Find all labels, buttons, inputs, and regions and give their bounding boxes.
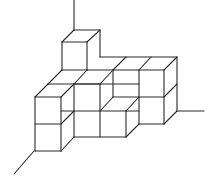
cube-edge xyxy=(87,30,100,42)
cube-edge xyxy=(139,57,151,70)
cube-edge xyxy=(61,84,74,97)
cube-edge xyxy=(61,137,74,151)
cube-edge xyxy=(35,84,48,97)
cube-edge xyxy=(164,57,177,70)
cube-edge xyxy=(126,97,139,111)
cube-edge xyxy=(74,70,87,84)
axis-left xyxy=(14,151,34,174)
cube-edge xyxy=(113,57,126,70)
cube-edge xyxy=(100,70,113,84)
cube-edge xyxy=(126,124,139,137)
cube-edge xyxy=(48,70,62,84)
cube-edge xyxy=(61,111,74,124)
cube-edge xyxy=(164,111,177,124)
cube-edge xyxy=(100,97,113,111)
cube-edge xyxy=(62,30,74,42)
cube-stack-diagram xyxy=(0,0,218,187)
cube-edge xyxy=(164,84,177,97)
cube-drawing xyxy=(0,0,218,187)
